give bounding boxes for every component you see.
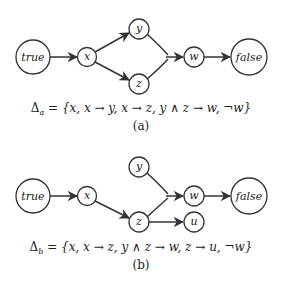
node-b-y: y <box>129 157 149 177</box>
node-label: true <box>21 51 45 64</box>
node-label: false <box>235 51 263 64</box>
node-label: z <box>135 77 142 90</box>
node-b-x: x <box>78 187 97 206</box>
edge-b-z-w <box>147 198 168 217</box>
edge-b-x-z <box>95 201 129 218</box>
node-a-w: w <box>184 47 204 67</box>
panel-a-graph: true x y z w false <box>16 19 267 94</box>
node-label: w <box>189 50 199 63</box>
formula-a: Δa = {x, x → y, x → z, y ∧ z → w, ¬w} <box>0 101 282 117</box>
edge-a-x-z <box>95 62 129 80</box>
node-a-x: x <box>78 48 97 67</box>
node-a-false: false <box>231 39 267 75</box>
node-label: false <box>235 190 263 203</box>
panel-b-graph: true x y z w u false <box>16 157 267 232</box>
caption-b: (b) <box>0 258 282 272</box>
node-label: y <box>135 22 143 35</box>
node-label: z <box>135 215 142 228</box>
node-b-z: z <box>129 212 149 232</box>
node-label: u <box>190 215 197 228</box>
node-label: true <box>21 190 45 203</box>
edge-a-x-y <box>95 33 129 52</box>
node-b-w: w <box>184 186 204 206</box>
node-label: x <box>84 189 91 202</box>
edge-b-y-w <box>147 173 168 194</box>
caption-a: (a) <box>0 119 282 133</box>
formula-body: = {x, x → z, y ∧ z → w, z → u, ¬w} <box>43 240 252 254</box>
formula-body: = {x, x → y, x → z, y ∧ z → w, ¬w} <box>44 101 251 115</box>
node-label: x <box>84 50 91 63</box>
node-b-true: true <box>16 179 50 213</box>
node-label: y <box>135 160 143 173</box>
delta-symbol: Δ <box>30 240 39 254</box>
node-label: w <box>189 189 199 202</box>
formula-b: Δb = {x, x → z, y ∧ z → w, z → u, ¬w} <box>0 240 282 256</box>
edge-a-z-w <box>147 59 168 79</box>
node-b-u: u <box>184 212 204 232</box>
edge-a-y-w <box>147 34 168 55</box>
node-a-y: y <box>129 19 149 39</box>
node-b-false: false <box>231 178 267 214</box>
node-a-z: z <box>129 74 149 94</box>
node-a-true: true <box>16 40 50 74</box>
